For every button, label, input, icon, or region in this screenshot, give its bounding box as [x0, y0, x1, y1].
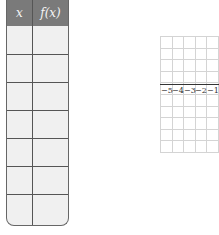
table-row	[7, 166, 68, 194]
table-body	[7, 26, 68, 226]
cell-x[interactable]	[7, 167, 33, 194]
cell-fx[interactable]	[33, 195, 68, 226]
x-tick-label: −4	[172, 86, 184, 95]
function-table: x f(x)	[6, 0, 69, 226]
grid-line	[160, 71, 219, 72]
table-header: x f(x)	[7, 0, 68, 26]
header-fx: f(x)	[33, 0, 68, 26]
cell-x[interactable]	[7, 55, 33, 82]
cell-x[interactable]	[7, 111, 33, 138]
table-row	[7, 54, 68, 82]
coordinate-grid: −5 −4 −3 −2 −1	[160, 36, 219, 153]
x-tick-label: −2	[195, 86, 207, 95]
x-axis	[160, 84, 219, 85]
grid-line	[160, 140, 219, 141]
table-row	[7, 82, 68, 110]
table-row	[7, 26, 68, 54]
cell-fx[interactable]	[33, 139, 68, 166]
cell-x[interactable]	[7, 195, 33, 226]
table-row	[7, 138, 68, 166]
cell-fx[interactable]	[33, 83, 68, 110]
table-row	[7, 194, 68, 226]
x-tick-label: −1	[207, 86, 219, 95]
grid-line	[160, 117, 219, 118]
grid-line	[160, 36, 219, 37]
cell-x[interactable]	[7, 26, 33, 54]
cell-fx[interactable]	[33, 55, 68, 82]
grid-line	[160, 59, 219, 60]
table-row	[7, 110, 68, 138]
cell-fx[interactable]	[33, 111, 68, 138]
cell-fx[interactable]	[33, 26, 68, 54]
header-x: x	[7, 0, 33, 26]
grid-line	[160, 48, 219, 49]
cell-x[interactable]	[7, 139, 33, 166]
cell-x[interactable]	[7, 83, 33, 110]
grid-line	[160, 152, 219, 153]
cell-fx[interactable]	[33, 167, 68, 194]
grid-line	[160, 106, 219, 107]
grid-line	[160, 129, 219, 130]
